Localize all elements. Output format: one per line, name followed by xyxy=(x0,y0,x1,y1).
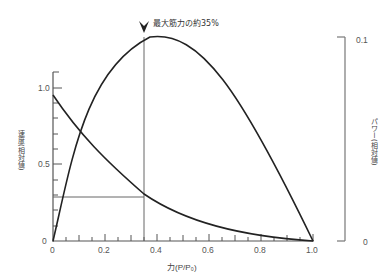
velocity-curve xyxy=(53,95,313,241)
power-curve xyxy=(53,36,313,241)
x-label-04: 0.4 xyxy=(150,245,162,255)
y-left-label-0: 0 xyxy=(42,236,47,246)
annotation-text: 最大筋力の約35% xyxy=(153,18,219,28)
y-right-axis-title: パワー(相対値) xyxy=(370,118,377,165)
y-axis-left-ticks xyxy=(53,72,62,226)
chart: 最大筋力の約35% 1.0 0.5 0 0 0.2 0.4 0.6 0.8 1.… xyxy=(0,0,389,280)
x-label-10: 1.0 xyxy=(306,245,318,255)
y-left-label-05: 0.5 xyxy=(38,159,50,169)
y-left-label-1: 1.0 xyxy=(38,83,50,93)
y-left-axis-title: 速度(相対値) xyxy=(17,130,24,170)
arrow-down-icon xyxy=(139,21,149,33)
y-right-label-01: 0.1 xyxy=(356,35,368,45)
x-label-08: 0.8 xyxy=(254,245,266,255)
x-label-06: 0.6 xyxy=(202,245,214,255)
x-axis-title: 力(P/P₀) xyxy=(167,261,197,272)
x-label-02: 0.2 xyxy=(98,245,110,255)
x-label-0: 0 xyxy=(50,245,55,255)
y-right-label-0: 0 xyxy=(363,237,368,247)
